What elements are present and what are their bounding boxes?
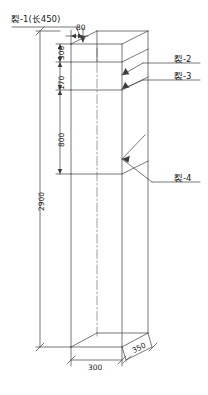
ext-350-right	[148, 333, 152, 347]
dimension-170-seg: 170	[58, 76, 66, 90]
crack-2-label: 裂-2	[174, 55, 191, 64]
dimension-80: 80	[76, 24, 86, 32]
arrowhead-crack3	[122, 82, 129, 89]
dimension-300-seg: 300	[58, 46, 66, 60]
bottom-left-hidden-edge	[71, 333, 97, 347]
arrow-800-top	[58, 90, 63, 95]
crack-3-label: 裂-3	[174, 72, 191, 81]
leader-crack4-slant	[122, 159, 152, 182]
section-line-crack4-side	[122, 161, 148, 174]
crack-1-label: 裂-1(长450)	[11, 15, 60, 24]
section-line-crack2-side	[122, 49, 148, 62]
dimension-2900-total: 2900	[38, 192, 46, 211]
tick-350-right	[149, 343, 157, 351]
drawing-canvas: 裂-1(长450) 裂-2 裂-3 裂-4 80 300 170 800 290…	[0, 0, 208, 395]
top-right-edge	[122, 31, 148, 44]
arrow-170-top	[58, 62, 63, 67]
crack-4-label: 裂-4	[174, 174, 191, 183]
tick-350-left	[123, 356, 131, 363]
arrow-800-bot	[58, 169, 63, 174]
dimension-300-width: 300	[88, 364, 102, 372]
dimension-800-seg: 800	[58, 133, 66, 147]
arrow-80-left	[71, 34, 76, 39]
leader-crack4-upper	[122, 135, 145, 159]
